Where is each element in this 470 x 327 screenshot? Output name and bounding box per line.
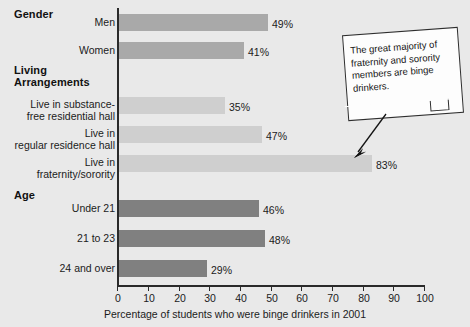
bar-value-24-and-over: 29%: [211, 264, 232, 276]
x-tick-label-70: 70: [327, 292, 339, 304]
x-tick-label-30: 30: [204, 292, 216, 304]
category-label-21-to-23: 21 to 23: [0, 233, 115, 245]
x-tick-30: [209, 286, 210, 291]
callout-box: The great majority of fraternity and sor…: [342, 27, 464, 121]
section-header-living-arrangements: Living Arrangements: [14, 64, 90, 88]
x-tick-label-20: 20: [174, 292, 186, 304]
x-tick-70: [332, 286, 333, 291]
x-tick-label-80: 80: [358, 292, 370, 304]
bar-regular-residence-hall: [118, 126, 262, 143]
category-label-regular-residence-hall: Live in regular residence hall: [0, 128, 115, 151]
bar-value-women: 41%: [248, 46, 269, 58]
bar-men: [118, 14, 268, 31]
binge-drinking-bar-chart: Gender Living Arrangements Age Men Women…: [0, 0, 470, 327]
x-tick-90: [393, 286, 394, 291]
category-label-women: Women: [0, 45, 115, 57]
bar-women: [118, 42, 244, 59]
x-tick-label-40: 40: [235, 292, 247, 304]
bar-value-substance-free-hall: 35%: [229, 101, 250, 113]
category-label-men: Men: [0, 17, 115, 29]
x-tick-60: [301, 286, 302, 291]
x-tick-0: [117, 286, 118, 291]
x-tick-50: [271, 286, 272, 291]
callout-arrow-icon: [330, 108, 410, 170]
x-tick-40: [240, 286, 241, 291]
x-tick-label-10: 10: [143, 292, 155, 304]
category-label-fraternity-sorority: Live in fraternity/sorority: [0, 157, 115, 180]
y-axis-line: [117, 8, 119, 286]
x-tick-label-100: 100: [416, 292, 434, 304]
x-axis-title: Percentage of students who were binge dr…: [0, 308, 470, 320]
x-tick-80: [363, 286, 364, 291]
bar-value-regular-residence-hall: 47%: [266, 130, 287, 142]
x-tick-10: [148, 286, 149, 291]
x-tick-label-50: 50: [266, 292, 278, 304]
bar-substance-free-hall: [118, 97, 225, 114]
bar-under-21: [118, 200, 259, 217]
bar-24-and-over: [118, 260, 207, 277]
bar-value-21-to-23: 48%: [269, 234, 290, 246]
category-label-substance-free-hall: Live in substance- free residential hall: [0, 99, 115, 122]
section-header-age: Age: [14, 189, 35, 201]
x-tick-label-0: 0: [115, 292, 121, 304]
bar-value-men: 49%: [272, 18, 293, 30]
category-label-24-and-over: 24 and over: [0, 263, 115, 275]
bar-value-under-21: 46%: [263, 204, 284, 216]
bar-21-to-23: [118, 230, 265, 247]
x-tick-20: [179, 286, 180, 291]
x-tick-label-90: 90: [388, 292, 400, 304]
callout-text: The great majority of fraternity and sor…: [350, 37, 459, 95]
x-tick-100: [424, 286, 425, 291]
category-label-under-21: Under 21: [0, 203, 115, 215]
x-tick-label-60: 60: [296, 292, 308, 304]
